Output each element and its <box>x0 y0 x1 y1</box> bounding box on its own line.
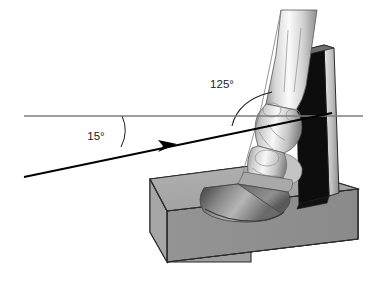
radiograph-positioning-diagram: 15° 125° <box>0 0 383 287</box>
angle-arcs <box>121 92 272 147</box>
diagram-canvas: 15° 125° <box>0 0 383 287</box>
angle-label-125: 125° <box>210 78 234 90</box>
angle-arc-15 <box>121 116 125 147</box>
angle-label-15: 15° <box>87 130 104 142</box>
